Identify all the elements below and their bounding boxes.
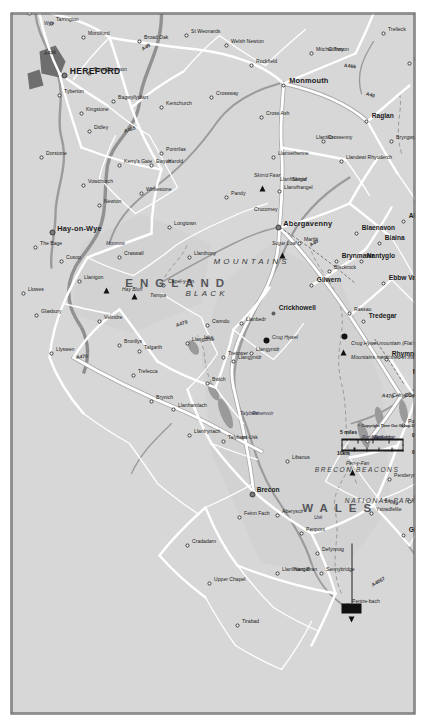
- village-dot-didley-23: [87, 129, 90, 132]
- village-dot-hirwaun-81: [407, 499, 410, 502]
- village-dot-kentchurch-21: [159, 105, 162, 108]
- village-dot-aberyscir-64: [275, 513, 278, 516]
- village-dot-llowes-43: [21, 291, 24, 294]
- village-dot-pandy-20: [224, 195, 227, 198]
- settlement-dot-abertillery: [401, 219, 406, 224]
- village-dot-sennybridge-68: [319, 571, 322, 574]
- village-dot-ystradfellte-80: [369, 511, 372, 514]
- village-dot-llangorse-61: [185, 341, 188, 344]
- settlement-dot-raglan: [364, 119, 369, 124]
- settlement-dot-blaenavon: [354, 231, 359, 236]
- village-dot-cwmdu-60: [205, 323, 208, 326]
- village-dot-rockfield-4: [249, 63, 252, 66]
- village-dot-ewyas-25: [149, 163, 152, 166]
- settlement-dot-tredegar: [361, 319, 366, 324]
- village-dot-vowchurch-34: [81, 183, 84, 186]
- village-dot-craswall-38: [117, 255, 120, 258]
- village-dot-llandewi-rhydderch-12: [339, 159, 342, 162]
- village-dot-llanvetherine-17: [271, 155, 274, 158]
- village-dot-llyswen-45: [49, 351, 52, 354]
- mountain-triangle-hay-bluff: [103, 287, 109, 293]
- village-dot-llanbedr-57: [239, 321, 242, 324]
- village-dot-llanigon-41: [77, 279, 80, 282]
- village-dot-bwlch-55: [205, 381, 208, 384]
- map-frame: WALESENGLANDBLACKMOUNTAINSBRECON BEACONS…: [10, 12, 415, 714]
- village-dot-longtown-37: [167, 225, 170, 228]
- village-dot-crossenny-14: [321, 139, 324, 142]
- settlement-dot-nantyglo: [359, 259, 364, 264]
- village-dot-the-bage-39: [33, 245, 36, 248]
- village-dot-penpont-66: [299, 531, 302, 534]
- village-dot-cusop-40: [59, 259, 62, 262]
- legend-symbol-black-triangle: [340, 349, 346, 355]
- village-dot-blackrock-84: [327, 269, 330, 272]
- village-dot-st-weonards-3: [184, 33, 187, 36]
- settlement-dot-hay-on-wye: [49, 229, 55, 235]
- village-dot-feinn-fach-63: [237, 515, 240, 518]
- mountain-triangle-twmpa: [131, 293, 137, 299]
- settlement-dot-rhymney: [384, 357, 389, 362]
- village-dot-marthi-83: [297, 241, 300, 244]
- village-dot-whitestone-36: [139, 191, 142, 194]
- village-dot-mordiford-31: [81, 35, 84, 38]
- village-dot-trelleck-8: [381, 31, 384, 34]
- village-dot-upper-chapel-72: [207, 581, 210, 584]
- mountain-triangle-sugar-loaf: [279, 252, 285, 258]
- village-dot-talgarth-47: [137, 349, 140, 352]
- village-dot-llanvihangel-18: [277, 189, 280, 192]
- pointer-rule: [351, 543, 352, 603]
- village-dot-broad-oak-2: [137, 39, 140, 42]
- village-dot-bagwyllydiart-22: [111, 99, 114, 102]
- village-dot-llanfrynach-51: [187, 433, 190, 436]
- village-dot-welsh-newton-5: [224, 43, 227, 46]
- village-dot-llanhamlach-50: [171, 407, 174, 410]
- village-dot-llanthony-59: [187, 255, 190, 258]
- village-dot-dorstone-33: [39, 155, 42, 158]
- location-marker-box: [341, 603, 361, 613]
- legend-symbol-black-circle: [341, 333, 347, 339]
- village-dot-llangynidr-54: [231, 359, 234, 362]
- pointer-arrowhead: [348, 616, 354, 622]
- village-dot-bronllys-46: [117, 343, 120, 346]
- village-dot-pontsticill-76: [401, 423, 404, 426]
- settlement-dot-brecon: [249, 491, 255, 497]
- village-dot-bryngwyn-11: [389, 139, 392, 142]
- village-dot-kingstone-28: [79, 111, 82, 114]
- village-dot-velindre-42: [97, 319, 100, 322]
- map-rotation-wrapper: WALESENGLANDBLACKMOUNTAINSBRECON BEACONS…: [0, 0, 423, 727]
- settlement-dot-glyn-neath: [401, 533, 406, 538]
- village-dot-tirabad-74: [235, 623, 238, 626]
- village-dot-trefecca-48: [131, 373, 134, 376]
- settlement-dot-brynmawr: [334, 259, 339, 264]
- village-dot-tyberton-32: [57, 93, 60, 96]
- village-dot-libanus-65: [285, 459, 288, 462]
- village-dot-crossway-16: [209, 95, 212, 98]
- village-dot-brynich-49: [149, 399, 152, 402]
- settlement-dot-crickhowell: [271, 311, 275, 315]
- village-dot-kerry-s-gate-27: [117, 163, 120, 166]
- village-dot-mitchel-troy-6: [309, 51, 312, 54]
- village-dot-llangynidr-86: [249, 351, 252, 354]
- village-dot-penderyn-79: [387, 477, 390, 480]
- settlement-dot-gilwern: [309, 283, 314, 288]
- crug-hywel-flat-top-marker: [263, 337, 269, 343]
- mountain-triangle-skirrid-fawr: [259, 185, 265, 191]
- settlement-dot-monmouth: [281, 83, 286, 88]
- village-dot-talybont-52: [221, 439, 224, 442]
- village-dot-tarrington-1: [49, 21, 52, 24]
- village-dot-rassau-85: [347, 311, 350, 314]
- village-dot-kingcoed-9: [407, 61, 410, 64]
- village-dot-cross-ash-15: [259, 115, 262, 118]
- mountain-triangle-pen-y-fan: [349, 469, 355, 475]
- village-dot-glasbury-44: [34, 313, 37, 316]
- village-dot-llanfihangel-70: [275, 571, 278, 574]
- village-dot-cradadarn-73: [185, 543, 188, 546]
- settlement-dot-abergavenny: [275, 224, 281, 230]
- village-dot-bursty-29: [87, 71, 90, 74]
- map-landscape-canvas: WALESENGLANDBLACKMOUNTAINSBRECON BEACONS…: [0, 0, 423, 727]
- village-dot-tretower-56: [221, 355, 224, 358]
- village-dot-bromyard-0: [27, 12, 30, 15]
- village-dot-newton-35: [97, 203, 100, 206]
- map-page: WALESENGLANDBLACKMOUNTAINSBRECON BEACONS…: [0, 0, 423, 727]
- settlement-dot-blaina: [377, 241, 382, 246]
